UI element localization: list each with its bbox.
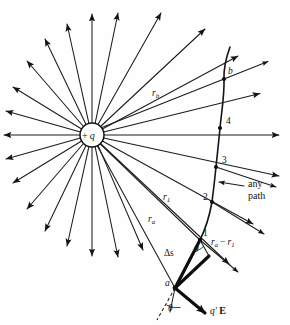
force-vector-label: q′E (210, 305, 226, 316)
field-ray-345 (104, 138, 279, 176)
path-node-label-4: 4 (226, 116, 231, 126)
ray-through-a (97, 146, 175, 288)
path-node-label-3: 3 (222, 155, 227, 165)
projection-segment (175, 256, 209, 288)
path-node-label-2: 2 (203, 192, 208, 202)
path-node-label-1: 1 (203, 228, 208, 238)
field-ray-75 (95, 13, 118, 123)
field-ray-330 (102, 141, 253, 224)
figure-svg: +q rb r1 ra b 4 3 2 1 a any path Δs ra−r… (0, 0, 290, 325)
label-r-1: r1 (163, 192, 170, 203)
ray-through-1 (100, 144, 200, 240)
rdiff-sub-a: a (215, 241, 219, 248)
any-path-curve (175, 47, 230, 288)
path-node-dot-3 (214, 165, 218, 169)
radial-difference-label: ra−r1 (211, 237, 235, 248)
force-vector-arrow (175, 288, 205, 313)
field-ray-315 (101, 144, 230, 265)
label-r-1-sub: 1 (167, 196, 170, 203)
field-ray-group (4, 13, 279, 257)
path-node-dot-2 (210, 200, 214, 204)
field-ray-300 (98, 145, 143, 250)
label-r-b-sub: b (156, 92, 160, 99)
field-ray-225 (27, 144, 84, 210)
ray-cont-3 (216, 167, 276, 187)
rdiff-sub-1: 1 (231, 241, 234, 248)
delta-s-label: Δs (164, 248, 174, 258)
label-r-a-sub: a (152, 218, 156, 225)
force-charge-symbol: q′ (210, 306, 218, 316)
field-ray-through-nodes (97, 79, 224, 288)
rdiff-minus: − (220, 237, 225, 247)
ray-cont-2 (212, 202, 264, 234)
path-node-dot-b (222, 77, 226, 81)
path-node-dot-4 (218, 126, 222, 130)
field-ray-135 (27, 61, 84, 127)
force-field-symbol: E (219, 305, 226, 316)
theta-label-lower: θ (168, 303, 173, 313)
path-node-label-b: b (228, 66, 233, 76)
path-node-label-a: a (165, 278, 170, 288)
field-ray-15 (104, 94, 260, 132)
label-r-b: rb (152, 88, 160, 99)
theta-label-upper: θ (194, 244, 199, 254)
any-path-pointer-arrow (219, 182, 244, 186)
charge-sign: + (82, 130, 88, 141)
field-ray-30 (102, 56, 238, 129)
figure-root: +q rb r1 ra b 4 3 2 1 a any path Δs ra−r… (0, 0, 290, 325)
any-path-label-line2: path (248, 190, 265, 201)
charge-symbol: q (90, 130, 95, 141)
label-r-a: ra (148, 214, 156, 225)
any-path-label-line1: any (248, 178, 262, 189)
field-ray-45 (101, 29, 206, 127)
